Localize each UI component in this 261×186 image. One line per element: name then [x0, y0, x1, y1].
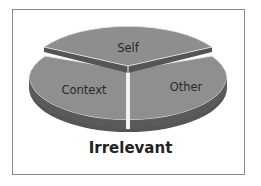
diagram-caption: Irrelevant — [0, 139, 261, 157]
pie-diagram: Self Context Other — [0, 0, 261, 186]
label-other: Other — [170, 80, 203, 94]
separator-line — [126, 70, 130, 129]
label-self: Self — [117, 41, 140, 55]
label-context: Context — [61, 83, 107, 97]
